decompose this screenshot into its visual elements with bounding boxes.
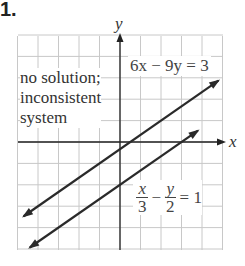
equals-rhs: = 1 [180, 188, 202, 208]
y-axis-label: y [115, 14, 123, 34]
numerator: x [136, 180, 148, 198]
solution-annotation: no solution; inconsistent system [20, 68, 101, 128]
denominator: 3 [136, 198, 149, 215]
note-line: system [20, 108, 101, 128]
equation-1-label: 6x − 9y = 3 [128, 56, 211, 76]
coordinate-plane [0, 0, 245, 266]
fraction-x-over-3: x 3 [136, 180, 149, 215]
numerator: y [165, 180, 177, 198]
fraction-y-over-2: y 2 [164, 180, 177, 215]
minus-sign: − [152, 188, 162, 208]
x-axis-label: x [229, 132, 237, 152]
note-line: no solution; [20, 68, 101, 88]
note-line: inconsistent [20, 88, 101, 108]
denominator: 2 [164, 198, 177, 215]
equation-2-label: x 3 − y 2 = 1 [133, 180, 202, 215]
